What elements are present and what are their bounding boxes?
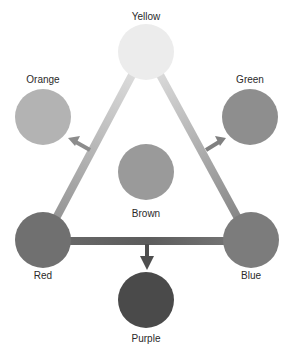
orange-circle <box>15 89 71 145</box>
red-circle <box>15 212 71 268</box>
yellow-circle <box>118 24 174 80</box>
orange-label: Orange <box>26 74 59 85</box>
arrow-to-purple <box>140 244 154 270</box>
brown-circle <box>118 144 174 200</box>
yellow-label: Yellow <box>132 11 161 22</box>
purple-label: Purple <box>132 333 161 344</box>
edge-yellow-blue <box>152 60 240 222</box>
blue-label: Blue <box>241 270 261 281</box>
color-mixing-diagram <box>0 0 296 356</box>
arrow-to-orange <box>68 136 90 150</box>
arrow-to-green <box>206 136 226 150</box>
blue-circle <box>223 212 279 268</box>
brown-label: Brown <box>132 208 160 219</box>
purple-circle <box>118 272 174 328</box>
red-label: Red <box>34 270 52 281</box>
green-label: Green <box>236 74 264 85</box>
edge-yellow-red <box>54 60 140 222</box>
green-circle <box>222 89 278 145</box>
